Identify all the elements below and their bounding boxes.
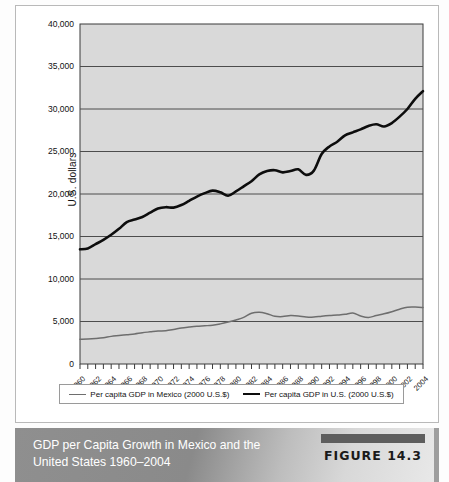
- legend-item-usa: Per capita GDP in U.S. (2000 U.S.$): [243, 390, 393, 399]
- chart-plot: [16, 6, 440, 424]
- legend-swatch-mexico-icon: [69, 394, 86, 395]
- figure-caption-text: GDP per Capita Growth in Mexico and the …: [33, 437, 283, 471]
- figure-badge-bar: [321, 434, 425, 443]
- figure-caption-bar: GDP per Capita Growth in Mexico and the …: [15, 428, 439, 482]
- legend-label-usa: Per capita GDP in U.S. (2000 U.S.$): [264, 390, 393, 399]
- legend-swatch-usa-icon: [243, 393, 260, 395]
- legend-item-mexico: Per capita GDP in Mexico (2000 U.S.$): [69, 390, 229, 399]
- x-axis-ticks: [80, 364, 423, 369]
- figure-container: U.S. dollars 40,000 35,000 30,000 25,000…: [0, 0, 449, 482]
- caption-edge-shadow: [434, 428, 439, 482]
- chart-legend: Per capita GDP in Mexico (2000 U.S.$) Pe…: [59, 384, 404, 404]
- figure-badge-label: FIGURE 14.3: [321, 448, 425, 463]
- figure-number-badge: FIGURE 14.3: [321, 434, 425, 463]
- chart-card: U.S. dollars 40,000 35,000 30,000 25,000…: [15, 5, 439, 423]
- legend-label-mexico: Per capita GDP in Mexico (2000 U.S.$): [90, 390, 229, 399]
